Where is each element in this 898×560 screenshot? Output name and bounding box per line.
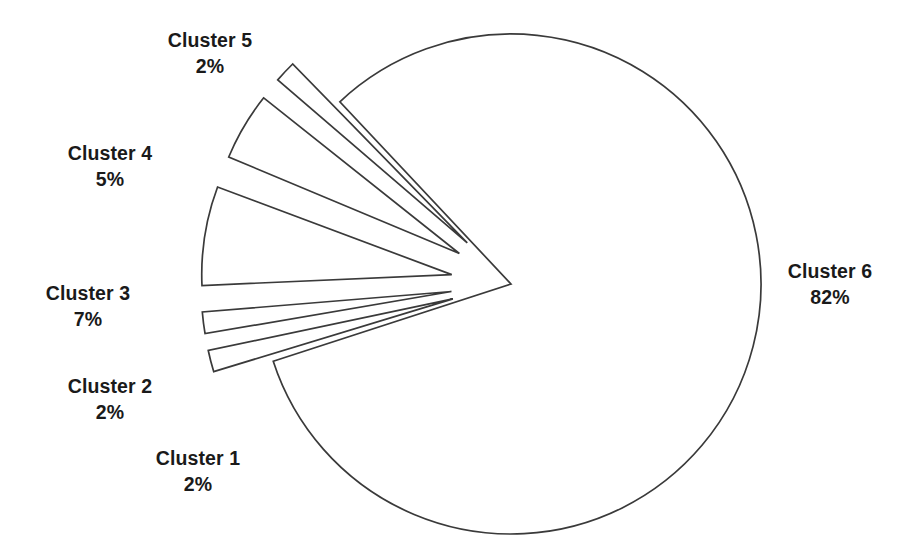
- slice-label-value-cluster-5: 2%: [168, 54, 252, 80]
- slice-label-cluster-5: Cluster 5 2%: [168, 28, 252, 79]
- slice-label-value-cluster-6: 82%: [788, 285, 872, 311]
- slice-label-name-cluster-2: Cluster 2: [68, 374, 152, 400]
- pie-chart: Cluster 5 2% Cluster 4 5% Cluster 3 7% C…: [0, 0, 898, 560]
- slice-label-cluster-3: Cluster 3 7%: [46, 281, 130, 332]
- slice-label-value-cluster-2: 2%: [68, 400, 152, 426]
- slice-label-name-cluster-4: Cluster 4: [68, 141, 152, 167]
- slice-label-name-cluster-3: Cluster 3: [46, 281, 130, 307]
- slice-label-cluster-1: Cluster 1 2%: [156, 446, 240, 497]
- slice-label-value-cluster-4: 5%: [68, 167, 152, 193]
- slice-label-cluster-2: Cluster 2 2%: [68, 374, 152, 425]
- slice-label-cluster-6: Cluster 6 82%: [788, 259, 872, 310]
- pie-chart-svg: [0, 0, 898, 560]
- slice-label-name-cluster-6: Cluster 6: [788, 259, 872, 285]
- slice-label-value-cluster-1: 2%: [156, 472, 240, 498]
- slice-label-name-cluster-1: Cluster 1: [156, 446, 240, 472]
- pie-slice-cluster-6: [273, 34, 761, 534]
- slice-label-name-cluster-5: Cluster 5: [168, 28, 252, 54]
- slice-label-cluster-4: Cluster 4 5%: [68, 141, 152, 192]
- pie-slices-group: [202, 34, 761, 534]
- slice-label-value-cluster-3: 7%: [46, 307, 130, 333]
- pie-slice-cluster-3: [202, 187, 452, 285]
